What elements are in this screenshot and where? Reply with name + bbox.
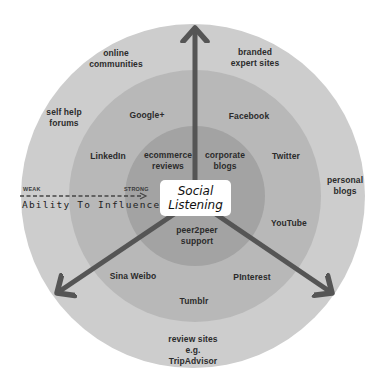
label-line: personal [327, 175, 363, 186]
label-line: peer2peer [176, 225, 218, 236]
label-line: blogs [205, 161, 245, 172]
center-line-2: Listening [168, 198, 223, 212]
label-personal-blogs: personal blogs [327, 175, 363, 197]
label-line: branded [231, 47, 279, 58]
label-facebook: Facebook [229, 111, 269, 122]
label-line: ecommerce [144, 150, 192, 161]
label-pinterest: PInterest [233, 272, 270, 283]
center-line-1: Social [178, 184, 214, 198]
label-branded-expert-sites: branded expert sites [231, 47, 279, 69]
label-line: review sites [168, 334, 217, 345]
label-self-help-forums: self help forums [46, 107, 81, 129]
label-line: forums [46, 118, 81, 129]
label-peer2peer-support: peer2peer support [176, 225, 218, 247]
label-line: support [176, 236, 218, 247]
label-line: e.g. [168, 345, 217, 356]
label-line: blogs [327, 186, 363, 197]
label-line: self help [46, 107, 81, 118]
label-linkedin: LinkedIn [90, 151, 126, 162]
label-online-communities: online communities [89, 48, 143, 70]
label-tumblr: Tumblr [180, 296, 209, 307]
label-line: reviews [144, 161, 192, 172]
axis-title: Ability To Influence [22, 199, 160, 210]
label-line: online [89, 48, 143, 59]
label-sina-weibo: Sina Weibo [110, 271, 157, 282]
axis-strong-label: STRONG [124, 186, 149, 192]
label-google-plus: Google+ [130, 110, 165, 121]
label-review-sites: review sites e.g. TripAdvisor [168, 334, 217, 367]
social-listening-diagram: online communities branded expert sites … [0, 0, 383, 387]
label-corporate-blogs: corporate blogs [205, 150, 245, 172]
label-line: TripAdvisor [168, 356, 217, 367]
label-youtube: YouTube [271, 218, 307, 229]
label-line: expert sites [231, 58, 279, 69]
label-line: communities [89, 59, 143, 70]
label-line: corporate [205, 150, 245, 161]
axis-weak-label: WEAK [23, 186, 41, 192]
label-twitter: Twitter [272, 151, 300, 162]
center-social-listening-box: Social Listening [160, 180, 231, 216]
label-ecommerce-reviews: ecommerce reviews [144, 150, 192, 172]
